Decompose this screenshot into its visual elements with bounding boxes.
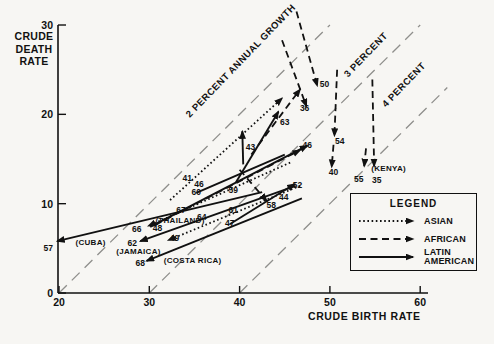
year-label-41: 41 bbox=[182, 173, 192, 183]
legend-entries: ASIANAFRICANLATIN AMERICAN bbox=[357, 212, 470, 266]
legend: LEGEND ASIANAFRICANLATIN AMERICAN bbox=[350, 193, 477, 271]
year-label-58: 58 bbox=[266, 200, 276, 210]
country-label: (KENYA) bbox=[371, 164, 406, 173]
legend-entry-label: ASIAN bbox=[424, 217, 453, 226]
x-tick-label: 50 bbox=[324, 296, 336, 308]
legend-entry-asian: ASIAN bbox=[357, 212, 470, 230]
legend-entry-latin-american: LATIN AMERICAN bbox=[357, 248, 470, 266]
year-label-54: 54 bbox=[335, 136, 345, 146]
trajectory-african-63 bbox=[251, 89, 300, 154]
x-tick-label: 60 bbox=[414, 296, 426, 308]
country-label: (THAILAND) bbox=[155, 216, 204, 225]
x-axis-title: CRUDE BIRTH RATE bbox=[308, 310, 468, 322]
year-label-52: 52 bbox=[293, 180, 303, 190]
x-tick-label: 20 bbox=[53, 296, 65, 308]
chart-plot-area: 2 PERCENT ANNUAL GROWTH3 PERCENT4 PERCEN… bbox=[0, 0, 494, 344]
year-label-59: 59 bbox=[229, 185, 239, 195]
year-label-43: 43 bbox=[246, 142, 256, 152]
year-label-61: 61 bbox=[229, 205, 239, 215]
y-tick-label: 0 bbox=[47, 287, 53, 299]
y-tick-label: 10 bbox=[41, 198, 53, 210]
year-label-68: 68 bbox=[136, 258, 146, 268]
x-tick-label: 30 bbox=[143, 296, 155, 308]
trajectory-spike-43 bbox=[242, 131, 243, 164]
y-tick-label: 20 bbox=[41, 108, 53, 120]
legend-entry-label: LATIN AMERICAN bbox=[424, 248, 474, 266]
country-label: (COSTA RICA) bbox=[164, 256, 222, 265]
country-label: (JAMAICA) bbox=[116, 247, 161, 256]
year-label-66: 66 bbox=[132, 224, 142, 234]
year-label-40: 40 bbox=[329, 167, 339, 177]
country-label: (CUBA) bbox=[75, 238, 105, 247]
trajectory-latin-mid bbox=[196, 155, 284, 193]
trajectory-costa-rica bbox=[147, 198, 302, 261]
y-axis-title: CRUDE DEATH RATE bbox=[8, 30, 60, 68]
trajectory-african-ends-50 bbox=[296, 12, 317, 86]
growth-line-label: 3 PERCENT bbox=[341, 30, 389, 79]
growth-line-label: 4 PERCENT bbox=[379, 60, 427, 109]
year-label-35: 35 bbox=[372, 175, 382, 185]
year-label-50: 50 bbox=[320, 79, 330, 89]
year-label-67: 67 bbox=[176, 205, 186, 215]
solid-line-sample bbox=[357, 252, 419, 262]
year-label-55: 55 bbox=[354, 174, 364, 184]
legend-title: LEGEND bbox=[357, 198, 470, 209]
year-label-44: 44 bbox=[279, 192, 289, 202]
year-label-63: 63 bbox=[280, 117, 290, 127]
year-label-36: 36 bbox=[300, 103, 310, 113]
trajectory-kenya-short bbox=[364, 148, 366, 166]
legend-entry-label: AFRICAN bbox=[424, 235, 466, 244]
year-label-60: 60 bbox=[192, 187, 202, 197]
growth-line-20 bbox=[59, 25, 330, 293]
legend-entry-african: AFRICAN bbox=[357, 230, 470, 248]
year-label-57: 57 bbox=[43, 243, 53, 253]
trajectory-african-54 bbox=[334, 70, 337, 136]
dotted-line-sample bbox=[357, 216, 419, 226]
dashed-line-sample bbox=[357, 234, 419, 244]
trajectory-kenya-main bbox=[372, 80, 374, 167]
year-label-49: 49 bbox=[170, 233, 180, 243]
year-label-46: 46 bbox=[303, 140, 313, 150]
x-tick-label: 40 bbox=[234, 296, 246, 308]
trajectory-african-40 bbox=[332, 145, 334, 167]
year-label-47: 47 bbox=[225, 218, 235, 228]
chart-canvas: 2 PERCENT ANNUAL GROWTH3 PERCENT4 PERCEN… bbox=[0, 0, 494, 344]
growth-line-label: 2 PERCENT ANNUAL GROWTH bbox=[183, 2, 297, 120]
demographic-transition-chart: 2 PERCENT ANNUAL GROWTH3 PERCENT4 PERCEN… bbox=[0, 0, 494, 344]
